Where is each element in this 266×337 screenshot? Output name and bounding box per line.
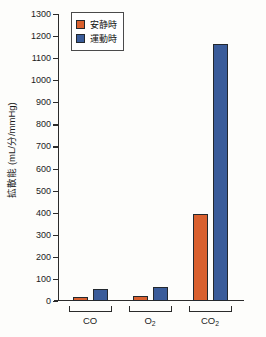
y-tick-label: 800	[36, 119, 51, 129]
y-tick-label: 0	[46, 296, 51, 306]
y-tick-mark	[53, 169, 58, 170]
y-tick-mark	[53, 301, 58, 302]
y-tick-mark	[53, 257, 58, 258]
bar-O2-exercise	[153, 287, 168, 301]
legend-swatch-exercise-icon	[76, 34, 85, 43]
y-tick-mark	[53, 191, 58, 192]
y-tick-mark	[53, 279, 58, 280]
y-tick-label: 500	[36, 186, 51, 196]
bar-CO2-rest	[193, 214, 208, 301]
y-tick-mark	[53, 235, 58, 236]
category-brace-CO	[69, 306, 112, 312]
y-tick-mark	[53, 213, 58, 214]
y-tick-label: 1000	[31, 75, 51, 85]
category-label-CO2: CO2	[179, 315, 242, 326]
y-axis-label-container: 拡散能 (mL/分/mmHg)	[0, 0, 22, 300]
diffusing-capacity-bar-chart: 拡散能 (mL/分/mmHg) 130012001100100090080070…	[0, 0, 266, 337]
legend: 安静時 運動時	[71, 12, 124, 51]
category-brace-CO2	[189, 306, 232, 312]
legend-item-exercise: 運動時	[76, 32, 117, 45]
y-axis-line	[58, 14, 59, 301]
y-tick-label: 1300	[31, 9, 51, 19]
y-tick-label: 100	[36, 274, 51, 284]
bar-CO-exercise	[93, 289, 108, 301]
category-brace-O2	[129, 306, 172, 312]
y-axis-label: 拡散能 (mL/分/mmHg)	[4, 102, 18, 197]
legend-label-exercise: 運動時	[90, 32, 117, 45]
plot-area: 1300120011001000900800700600500400300200…	[58, 14, 238, 301]
bar-CO2-exercise	[213, 44, 228, 301]
y-tick-label: 700	[36, 141, 51, 151]
y-tick-mark	[53, 80, 58, 81]
legend-item-rest: 安静時	[76, 18, 117, 31]
y-tick-mark	[53, 36, 58, 37]
y-tick-mark	[53, 146, 58, 147]
category-label-CO: CO	[59, 315, 122, 326]
y-tick-label: 300	[36, 230, 51, 240]
y-tick-label: 900	[36, 97, 51, 107]
bar-CO-rest	[73, 297, 88, 301]
y-tick-mark	[53, 58, 58, 59]
y-tick-mark	[53, 102, 58, 103]
y-tick-label: 200	[36, 252, 51, 262]
y-tick-label: 600	[36, 164, 51, 174]
legend-label-rest: 安静時	[90, 18, 117, 31]
y-tick-label: 1200	[31, 31, 51, 41]
y-tick-mark	[53, 14, 58, 15]
y-tick-mark	[53, 124, 58, 125]
y-tick-label: 1100	[32, 53, 51, 63]
legend-swatch-rest-icon	[76, 20, 85, 29]
category-label-O2: O2	[119, 315, 182, 326]
y-tick-label: 400	[36, 208, 51, 218]
bar-O2-rest	[133, 296, 148, 301]
